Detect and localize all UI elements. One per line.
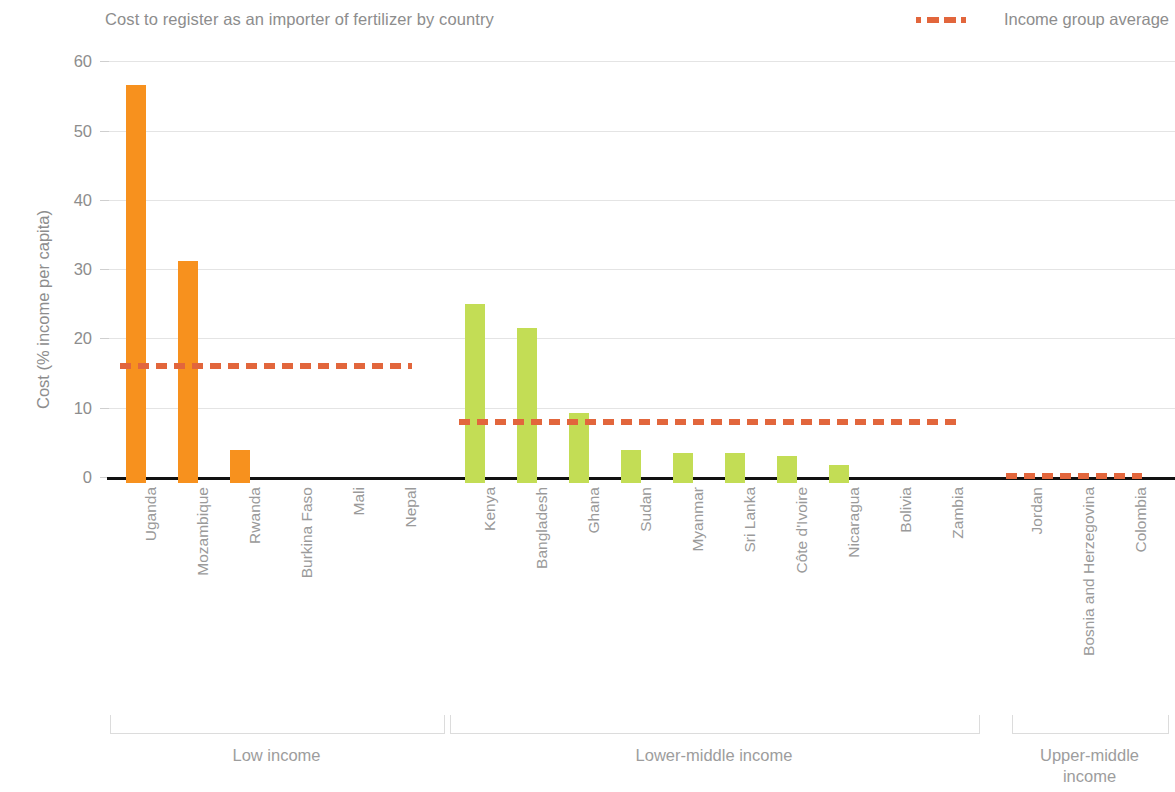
bar-sudan	[621, 450, 641, 483]
y-axis-tick-label: 50	[0, 121, 92, 140]
x-axis-label: Kenya	[481, 487, 499, 531]
bar-mozambique	[178, 261, 198, 483]
group-label-lower-middle-income: Lower-middle income	[450, 745, 978, 766]
x-axis-label: Sudan	[637, 487, 655, 532]
chart-legend: Income group average	[916, 10, 1169, 29]
plot-area	[107, 40, 1175, 480]
x-axis-label: Myanmar	[689, 487, 707, 552]
x-axis-label: Mozambique	[194, 487, 212, 576]
y-axis-tick-label: 20	[0, 329, 92, 348]
x-axis-label: Uganda	[142, 487, 160, 541]
bar-c-te-d-ivoire	[777, 456, 797, 483]
bar-rwanda	[230, 450, 250, 483]
y-axis-tick-label: 30	[0, 260, 92, 279]
bar-sri-lanka	[725, 453, 745, 483]
x-axis-label: Jordan	[1028, 487, 1046, 534]
y-axis-tick-label: 10	[0, 398, 92, 417]
bar-bangladesh	[517, 328, 537, 483]
group-label-low-income: Low income	[110, 745, 443, 766]
x-axis-label: Rwanda	[246, 487, 264, 544]
bar-nicaragua	[829, 465, 849, 483]
dashed-line-icon	[916, 17, 960, 23]
y-axis-tick-label: 60	[0, 52, 92, 71]
bracket-low-income	[110, 715, 445, 734]
bar-myanmar	[673, 453, 693, 483]
bracket-lower-middle-income	[450, 715, 980, 734]
average-line-upper-middle-income	[1006, 473, 1142, 479]
x-axis-label: Zambia	[949, 487, 967, 539]
x-axis-label: Sri Lanka	[741, 487, 759, 552]
average-line-low-income	[120, 363, 412, 369]
bar-kenya	[465, 304, 485, 483]
x-axis-label: Nicaragua	[845, 487, 863, 558]
x-axis-label: Ghana	[585, 487, 603, 534]
x-axis-label: Nepal	[402, 487, 420, 528]
x-axis-label: Mali	[350, 487, 368, 515]
bracket-upper-middle-income	[1012, 715, 1169, 734]
x-axis-label: Bosnia and Herzegovina	[1080, 487, 1098, 656]
x-axis-label: Côte d'Ivoire	[793, 487, 811, 574]
chart-figure: Cost to register as an importer of ferti…	[0, 0, 1175, 792]
group-label-upper-middle-income: Upper-middle income	[1012, 745, 1167, 787]
chart-title: Cost to register as an importer of ferti…	[105, 10, 494, 29]
average-line-lower-middle-income	[459, 419, 959, 425]
x-axis-label: Colombia	[1132, 487, 1150, 552]
x-axis-label: Bolivia	[897, 487, 915, 533]
x-axis-label: Burkina Faso	[298, 487, 316, 578]
legend-label-income-group-average: Income group average	[1004, 10, 1169, 29]
x-axis-label: Bangladesh	[533, 487, 551, 569]
bar-uganda	[126, 85, 146, 483]
y-axis-tick-label: 0	[0, 468, 92, 487]
y-axis-tick-label: 40	[0, 190, 92, 209]
